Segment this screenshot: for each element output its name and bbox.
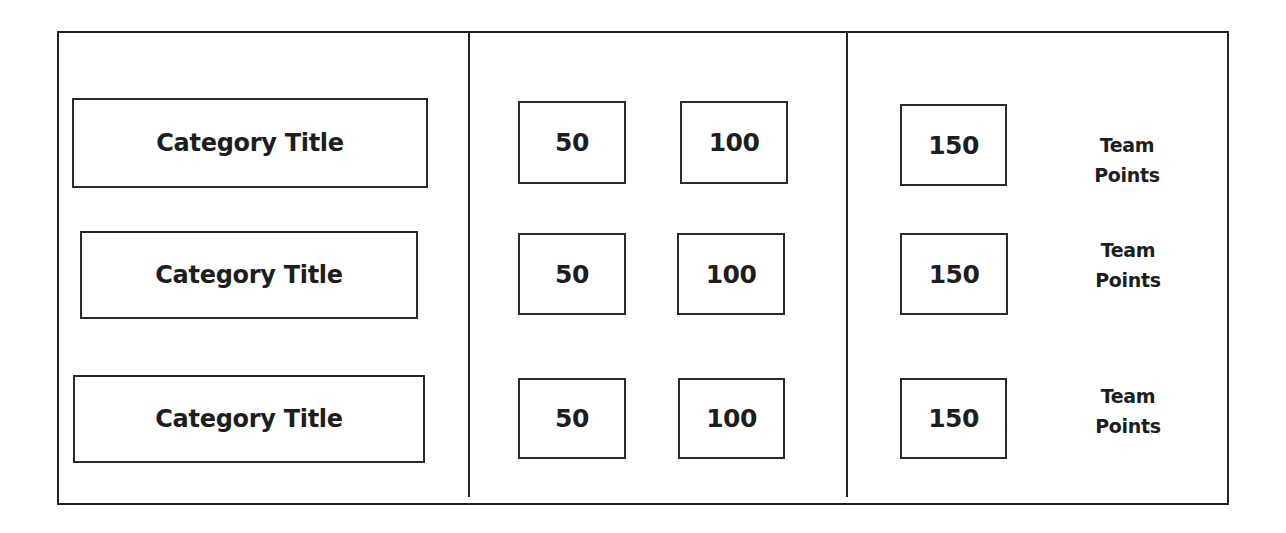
points-value: 150 (928, 131, 979, 160)
points-100-box-row-1[interactable]: 100 (680, 101, 788, 184)
points-value: 50 (555, 260, 589, 289)
category-title-box-1[interactable]: Category Title (72, 98, 428, 188)
team-points-label-row-2: Team Points (1083, 235, 1173, 295)
category-title-label: Category Title (156, 129, 343, 157)
points-100-box-row-2[interactable]: 100 (677, 233, 785, 315)
team-points-line1: Team (1083, 381, 1173, 411)
team-points-line2: Points (1083, 411, 1173, 441)
points-value: 150 (928, 404, 979, 433)
team-points-line1: Team (1083, 235, 1173, 265)
column-divider-2 (846, 33, 848, 497)
team-points-line1: Team (1082, 130, 1172, 160)
points-value: 100 (709, 128, 760, 157)
category-title-box-2[interactable]: Category Title (80, 231, 418, 319)
points-value: 150 (929, 260, 980, 289)
points-value: 100 (706, 404, 757, 433)
points-150-box-row-1[interactable]: 150 (900, 104, 1007, 186)
team-points-label-row-3: Team Points (1083, 381, 1173, 441)
category-title-label: Category Title (155, 261, 342, 289)
points-50-box-row-3[interactable]: 50 (518, 378, 626, 459)
points-value: 100 (706, 260, 757, 289)
points-150-box-row-2[interactable]: 150 (900, 233, 1008, 315)
team-points-label-row-1: Team Points (1082, 130, 1172, 190)
team-points-line2: Points (1082, 160, 1172, 190)
category-title-label: Category Title (155, 405, 342, 433)
column-divider-1 (468, 33, 470, 497)
points-100-box-row-3[interactable]: 100 (678, 378, 785, 459)
points-50-box-row-2[interactable]: 50 (518, 233, 626, 315)
points-value: 50 (555, 404, 589, 433)
points-50-box-row-1[interactable]: 50 (518, 101, 626, 184)
team-points-line2: Points (1083, 265, 1173, 295)
category-title-box-3[interactable]: Category Title (73, 375, 425, 463)
points-150-box-row-3[interactable]: 150 (900, 378, 1007, 459)
points-value: 50 (555, 128, 589, 157)
